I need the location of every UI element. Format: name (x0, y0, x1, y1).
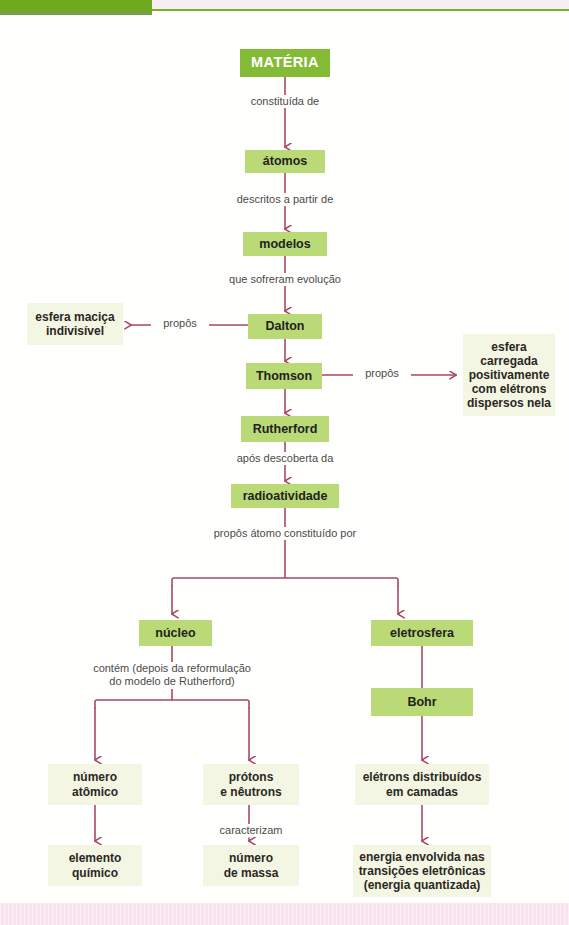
node-radioatividade[interactable]: radioatividade (231, 484, 339, 508)
node-energia-transicoes-label: energia envolvida nas transições eletrôn… (359, 850, 486, 892)
node-protons-neutrons-label: prótons e nêutrons (220, 770, 281, 798)
caption-propos-dalton: propôs (151, 317, 209, 330)
node-bohr[interactable]: Bohr (371, 688, 473, 716)
edge-contem-bus (95, 700, 249, 708)
node-numero-massa-label: número de massa (224, 851, 279, 879)
node-elemento-quimico[interactable]: elemento químico (48, 845, 142, 886)
caption-que-sofreram-evolucao: que sofreram evolução (211, 273, 359, 286)
header-rule (152, 9, 569, 11)
edge-split-bus-nucleo-eletrosfera (172, 578, 398, 586)
node-rutherford-label: Rutherford (253, 422, 318, 437)
node-eletrons-camadas-label: elétrons distribuídos em camadas (363, 770, 482, 798)
node-modelos-label: modelos (259, 237, 310, 252)
caption-propos-thomson: propôs (353, 367, 411, 380)
node-numero-atomico[interactable]: número atômico (48, 764, 142, 805)
header-tint-strip (152, 0, 569, 9)
footer-pink-band (0, 903, 569, 925)
node-thomson[interactable]: Thomson (246, 363, 322, 389)
caption-propos-atomo-constituido: propôs átomo constituído por (190, 527, 380, 540)
node-numero-massa[interactable]: número de massa (203, 845, 299, 886)
node-radioatividade-label: radioatividade (243, 489, 328, 504)
node-nucleo-label: núcleo (155, 626, 195, 641)
node-esfera-macica-label: esfera maciça indivisível (35, 310, 114, 338)
node-thomson-label: Thomson (256, 369, 312, 384)
caption-apos-descoberta-da: após descoberta da (215, 452, 355, 465)
caption-caracterizam: caracterizam (211, 824, 291, 837)
node-elemento-quimico-label: elemento químico (69, 851, 122, 879)
node-energia-transicoes[interactable]: energia envolvida nas transições eletrôn… (353, 845, 491, 897)
node-esfera-carregada-label: esfera carregada positivamente com elétr… (467, 340, 551, 411)
caption-descritos-a-partir-de: descritos a partir de (215, 193, 355, 206)
node-atomos[interactable]: átomos (245, 150, 325, 173)
header-green-tab-shadow (0, 12, 152, 15)
node-esfera-carregada[interactable]: esfera carregada positivamente com elétr… (463, 334, 555, 416)
node-rutherford[interactable]: Rutherford (241, 416, 329, 442)
node-modelos[interactable]: modelos (243, 232, 327, 256)
node-protons-neutrons[interactable]: prótons e nêutrons (203, 764, 299, 805)
node-eletrosfera-label: eletrosfera (390, 626, 454, 641)
node-eletrons-camadas[interactable]: elétrons distribuídos em camadas (355, 764, 489, 805)
node-materia[interactable]: MATÉRIA (240, 49, 330, 77)
node-esfera-macica[interactable]: esfera maciça indivisível (27, 303, 123, 345)
concept-map-page: MATÉRIA átomos modelos Dalton Thomson Ru… (0, 0, 569, 925)
header-green-tab (0, 0, 152, 12)
node-materia-label: MATÉRIA (251, 54, 319, 71)
caption-contem-reformulacao: contém (depois da reformulação do modelo… (72, 662, 272, 689)
caption-constituida-de: constituída de (225, 95, 345, 108)
node-nucleo[interactable]: núcleo (139, 620, 212, 646)
node-numero-atomico-label: número atômico (72, 770, 118, 798)
node-eletrosfera[interactable]: eletrosfera (371, 620, 473, 646)
node-atomos-label: átomos (263, 154, 307, 169)
node-dalton-label: Dalton (266, 319, 305, 334)
node-bohr-label: Bohr (407, 695, 436, 710)
node-dalton[interactable]: Dalton (248, 314, 322, 339)
